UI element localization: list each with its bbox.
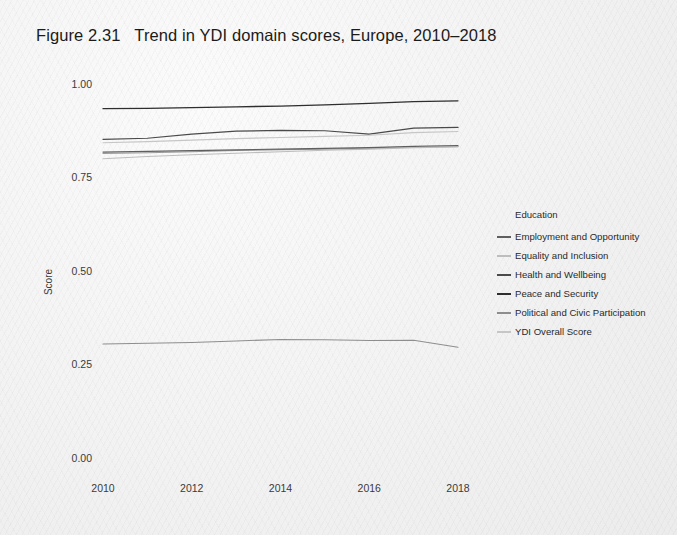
legend-item-label: Employment and Opportunity bbox=[515, 232, 639, 242]
x-tick-2016: 2016 bbox=[358, 482, 382, 494]
legend-item-ydi-overall-score[interactable]: YDI Overall Score bbox=[497, 323, 657, 341]
legend-line-swatch-icon bbox=[497, 293, 511, 294]
series-line-employment-and-opportunity bbox=[103, 146, 458, 152]
y-tick-0.00: 0.00 bbox=[72, 452, 93, 464]
x-tick-2014: 2014 bbox=[269, 482, 293, 494]
y-tick-0.25: 0.25 bbox=[72, 358, 93, 370]
series-lines-group bbox=[103, 101, 458, 347]
y-axis-title: Score bbox=[43, 269, 54, 296]
x-tick-2018: 2018 bbox=[446, 482, 470, 494]
y-axis-tick-labels: 0.000.250.500.751.00 bbox=[72, 78, 93, 464]
chart-legend: Education Employment and OpportunityEqua… bbox=[497, 209, 657, 342]
legend-item-label: Equality and Inclusion bbox=[515, 251, 608, 261]
legend-item-equality-and-inclusion[interactable]: Equality and Inclusion bbox=[497, 247, 657, 265]
y-tick-1.00: 1.00 bbox=[72, 78, 93, 90]
x-tick-2010: 2010 bbox=[91, 482, 115, 494]
legend-line-swatch-icon bbox=[497, 255, 511, 256]
legend-item-peace-and-security[interactable]: Peace and Security bbox=[497, 285, 657, 303]
legend-item-health-and-wellbeing[interactable]: Health and Wellbeing bbox=[497, 266, 657, 284]
legend-item-label: Peace and Security bbox=[515, 289, 598, 299]
series-line-peace-and-security bbox=[103, 101, 458, 109]
legend-item-label: YDI Overall Score bbox=[515, 327, 592, 337]
legend-line-swatch-icon bbox=[497, 274, 511, 275]
y-tick-0.50: 0.50 bbox=[72, 265, 93, 277]
legend-line-swatch-icon bbox=[497, 331, 511, 332]
legend-item-political-and-civic-participation[interactable]: Political and Civic Participation bbox=[497, 304, 657, 322]
figure-container: Figure 2.31 Trend in YDI domain scores, … bbox=[0, 0, 677, 535]
legend-entries: Employment and OpportunityEquality and I… bbox=[497, 228, 657, 341]
legend-line-swatch-icon bbox=[497, 236, 511, 237]
y-tick-0.75: 0.75 bbox=[72, 171, 93, 183]
legend-line-swatch-icon bbox=[497, 312, 511, 313]
series-line-political-and-civic-participation bbox=[103, 339, 458, 347]
legend-item-label: Health and Wellbeing bbox=[515, 270, 606, 280]
legend-title: Education bbox=[515, 209, 657, 220]
legend-item-label: Political and Civic Participation bbox=[515, 308, 646, 318]
legend-item-employment-and-opportunity[interactable]: Employment and Opportunity bbox=[497, 228, 657, 246]
x-tick-2012: 2012 bbox=[180, 482, 204, 494]
x-axis-tick-labels: 20102012201420162018 bbox=[91, 482, 470, 494]
